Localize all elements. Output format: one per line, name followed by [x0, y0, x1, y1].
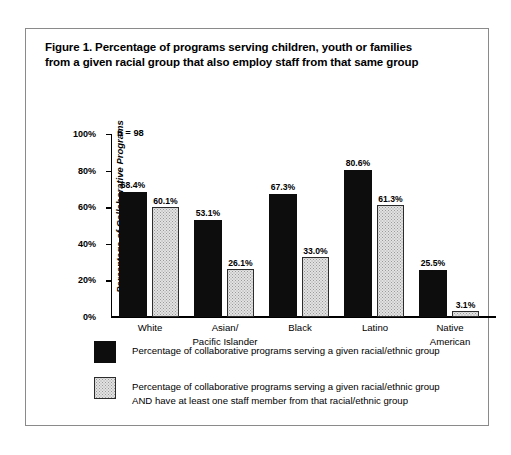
legend-label-served-and-staff: Percentage of collaborative programs ser…: [132, 377, 440, 407]
bar-value-white-served: 68.4%: [121, 180, 145, 190]
bar-value-asian-pacific-islander-served-and-staff: 26.1%: [228, 258, 252, 268]
bar-group-latino: 80.6% 61.3%: [344, 134, 406, 317]
figure-title-line-1: Figure 1. Percentage of programs serving…: [45, 40, 465, 55]
bar-black-served-and-staff[interactable]: 33.0%: [302, 257, 329, 317]
legend-entry-served: Percentage of collaborative programs ser…: [94, 341, 474, 363]
x-label-black-line-1: Black: [269, 321, 331, 335]
y-tick-label-40: 40%: [62, 239, 96, 249]
figure-title: Figure 1. Percentage of programs serving…: [45, 40, 465, 70]
black-solid-swatch-icon: [94, 341, 116, 363]
bar-value-latino-served: 80.6%: [346, 158, 370, 168]
bar-native-american-served[interactable]: 25.5%: [419, 270, 447, 317]
bar-group-native-american: 25.5% 3.1%: [419, 134, 481, 317]
bar-native-american-served-and-staff[interactable]: 3.1%: [452, 311, 479, 317]
bar-black-served[interactable]: 67.3%: [269, 194, 297, 317]
y-tick-label-80: 80%: [62, 166, 96, 176]
sample-size-annotation: n = 98: [117, 127, 144, 138]
y-tick-label-60: 60%: [62, 202, 96, 212]
x-label-native-american-line-1: Native: [419, 321, 481, 335]
bars-layer: 68.4% 60.1% 53.1% 26.1% 67: [111, 134, 471, 317]
plot-area: Percentage of Collaborative Programs 100…: [60, 99, 480, 324]
bar-value-black-served: 67.3%: [271, 182, 295, 192]
bar-value-native-american-served: 25.5%: [421, 258, 445, 268]
legend-entry-served-and-staff: Percentage of collaborative programs ser…: [94, 377, 474, 407]
bar-latino-served[interactable]: 80.6%: [344, 170, 372, 317]
bar-group-asian-pacific-islander: 53.1% 26.1%: [194, 134, 256, 317]
x-label-asian-pacific-islander-line-1: Asian/: [169, 321, 281, 335]
bar-asian-pacific-islander-served-and-staff[interactable]: 26.1%: [227, 269, 254, 317]
bar-value-native-american-served-and-staff: 3.1%: [456, 300, 476, 310]
bar-group-white: 68.4% 60.1%: [119, 134, 181, 317]
y-axis-tick-labels: 100% 80% 60% 40% 20% 0%: [60, 134, 96, 317]
legend-label-served-and-staff-line-1: Percentage of collaborative programs ser…: [132, 380, 440, 394]
x-label-latino: Latino: [344, 321, 406, 335]
y-tick-label-0: 0%: [62, 312, 96, 322]
light-stippled-swatch-icon: [94, 377, 116, 399]
y-tick-label-20: 20%: [62, 275, 96, 285]
bar-white-served-and-staff[interactable]: 60.1%: [152, 207, 179, 317]
x-label-latino-line-1: Latino: [344, 321, 406, 335]
figure-frame: Figure 1. Percentage of programs serving…: [25, 28, 489, 426]
chart-axes: 68.4% 60.1% 53.1% 26.1% 67: [111, 134, 471, 317]
bar-latino-served-and-staff[interactable]: 61.3%: [377, 205, 404, 317]
bar-white-served[interactable]: 68.4%: [119, 192, 147, 317]
bar-value-black-served-and-staff: 33.0%: [303, 246, 327, 256]
legend-label-served-and-staff-line-2: AND have at least one staff member from …: [132, 394, 440, 408]
legend-label-served: Percentage of collaborative programs ser…: [132, 341, 440, 358]
legend-label-served-line-1: Percentage of collaborative programs ser…: [132, 344, 440, 358]
bar-group-black: 67.3% 33.0%: [269, 134, 331, 317]
figure-title-line-2: from a given racial group that also empl…: [45, 55, 465, 70]
bar-value-white-served-and-staff: 60.1%: [153, 196, 177, 206]
bar-value-asian-pacific-islander-served: 53.1%: [196, 208, 220, 218]
bar-asian-pacific-islander-served[interactable]: 53.1%: [194, 220, 222, 317]
chart-legend: Percentage of collaborative programs ser…: [94, 341, 474, 421]
y-tick-label-100: 100%: [62, 129, 96, 139]
x-label-black: Black: [269, 321, 331, 335]
bar-value-latino-served-and-staff: 61.3%: [378, 194, 402, 204]
